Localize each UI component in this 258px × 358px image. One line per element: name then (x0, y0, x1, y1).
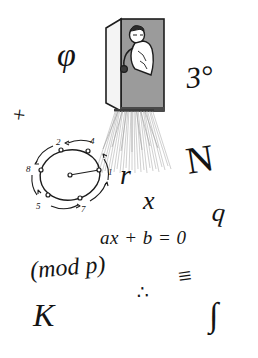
cycle-label-5: 5 (36, 201, 41, 211)
cycle-label-1: 1 (108, 167, 113, 177)
q-symbol: q (211, 199, 227, 226)
cycle-node-4 (86, 149, 90, 153)
linear-equation: ax + b = 0 (100, 228, 187, 247)
cycle-node-7 (78, 196, 82, 200)
cycle-diagram: 1 4 2 8 5 7 (22, 136, 122, 214)
cycle-radius (70, 170, 99, 175)
three-degrees-symbol: 3° (185, 61, 215, 94)
r-symbol: r (120, 161, 131, 189)
cycle-node-2 (59, 148, 63, 152)
cycle-node-1 (97, 168, 101, 172)
door-panel (106, 19, 121, 111)
cycle-label-2: 2 (56, 137, 61, 147)
cycle-label-8: 8 (26, 164, 31, 174)
doodle-canvas: 1 4 2 8 5 7 φ 3° + r N x q ax + b = 0 (m… (0, 0, 258, 358)
cycle-node-5 (46, 193, 50, 197)
k-symbol: K (33, 299, 54, 331)
person-hand (121, 66, 128, 73)
cycle-center-node (68, 173, 72, 177)
x-symbol: x (143, 188, 155, 214)
cycle-node-8 (39, 168, 43, 172)
doorway-svg (104, 17, 166, 115)
doorway-scene (104, 17, 166, 115)
cycle-label-7: 7 (81, 204, 86, 214)
therefore-symbol: ∴ (136, 283, 149, 303)
cycle-label-4: 4 (90, 136, 95, 146)
integral-symbol: ∫ (209, 298, 218, 332)
door-threshold (121, 107, 164, 111)
phi-symbol: φ (57, 38, 76, 72)
n-symbol: N (183, 138, 216, 180)
congruent-symbol: ≡ (176, 263, 193, 289)
modulus-expression: (mod p) (29, 252, 106, 282)
plus-symbol: + (12, 103, 27, 127)
